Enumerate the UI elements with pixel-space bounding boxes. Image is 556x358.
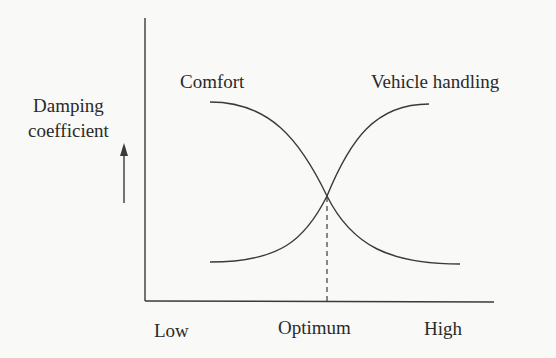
y-axis-label: Damping coefficient bbox=[28, 93, 109, 143]
vehicle-handling-label: Vehicle handling bbox=[371, 72, 499, 91]
x-tick-low: Low bbox=[154, 321, 189, 340]
vehicle-handling-curve bbox=[210, 104, 429, 262]
up-arrow-icon bbox=[120, 143, 128, 203]
y-axis-label-line2: coefficient bbox=[28, 118, 109, 143]
comfort-curve bbox=[210, 102, 460, 264]
x-axis bbox=[145, 301, 494, 302]
diagram-canvas bbox=[0, 0, 556, 358]
comfort-label: Comfort bbox=[180, 72, 244, 91]
x-tick-optimum: Optimum bbox=[278, 318, 351, 337]
y-axis-label-line1: Damping bbox=[28, 93, 109, 118]
x-tick-high: High bbox=[424, 319, 462, 338]
damping-diagram: Damping coefficient Comfort Vehicle hand… bbox=[0, 0, 556, 358]
